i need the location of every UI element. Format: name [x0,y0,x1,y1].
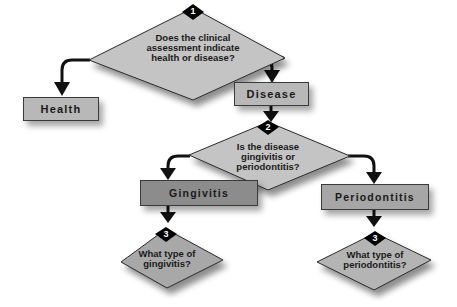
arrowhead-icon [160,168,176,180]
disease-box: Disease [234,82,309,106]
edge-q2-periodontitis [348,156,374,174]
arrowhead-icon [160,212,176,223]
periodontitis-box: Periodontitis [321,184,429,210]
step-number-3b: 3 [369,233,381,243]
gingivitis-box: Gingivitis [140,180,258,206]
question-3-periodontitis-text: What type of periodontitis? [330,250,420,270]
step-number-1: 1 [187,6,199,16]
step-number-3a: 3 [160,229,172,239]
arrowhead-icon [366,216,382,227]
arrowhead-icon [263,111,279,122]
question-3-gingivitis-text: What type of gingivitis? [126,249,208,269]
question-1-text: Does the clinical assessment indicate he… [128,33,258,63]
edge-q1-health [62,60,90,82]
arrowhead-icon [366,172,382,184]
health-box: Health [23,97,99,121]
edge-q2-gingivitis [168,156,190,170]
arrowhead-icon [54,82,70,96]
step-number-2: 2 [262,122,274,132]
question-2-text: Is the disease gingivitis or periodontit… [218,142,318,172]
